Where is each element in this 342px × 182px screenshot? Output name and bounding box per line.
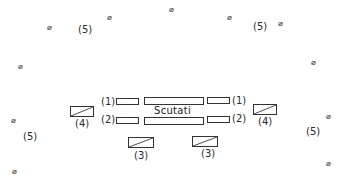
rect-1-left [116, 98, 139, 105]
marker-icon: ⌀ [107, 14, 112, 22]
label-2: (2) [232, 114, 246, 124]
formation-diagram: ⌀ ⌀ ⌀ ⌀ ⌀ ⌀ ⌀ ⌀ ⌀ ⌀ ⌀ (5) (5) (5) (5) (4… [0, 0, 342, 182]
marker-icon: ⌀ [18, 63, 23, 71]
marker-icon: ⌀ [326, 160, 331, 168]
marker-icon: ⌀ [169, 6, 174, 14]
label-3: (3) [201, 149, 215, 159]
rect-2-right [207, 116, 230, 123]
marker-icon: ⌀ [278, 20, 283, 28]
label-5: (5) [253, 22, 267, 32]
marker-icon: ⌀ [47, 24, 52, 32]
marker-icon: ⌀ [227, 14, 232, 22]
hatched-block-rear-left [128, 137, 154, 148]
marker-icon: ⌀ [11, 117, 16, 125]
label-4: (4) [75, 119, 89, 129]
label-1: (1) [101, 97, 115, 107]
hatched-block-right [253, 104, 277, 115]
marker-icon: ⌀ [311, 59, 316, 67]
label-5: (5) [306, 127, 320, 137]
rect-2-left [116, 117, 139, 124]
marker-icon: ⌀ [326, 113, 331, 121]
scutati-label: Scutati [154, 106, 191, 116]
label-2: (2) [101, 115, 115, 125]
label-5: (5) [78, 25, 92, 35]
label-1: (1) [232, 96, 246, 106]
label-3: (3) [134, 151, 148, 161]
hatched-block-rear-right [192, 136, 218, 147]
scutati-front-rect [144, 97, 204, 105]
hatched-block-left [70, 106, 94, 117]
scutati-rear-rect [144, 117, 204, 125]
marker-icon: ⌀ [12, 168, 17, 176]
label-4: (4) [258, 117, 272, 127]
label-5: (5) [23, 132, 37, 142]
rect-1-right [207, 97, 230, 104]
